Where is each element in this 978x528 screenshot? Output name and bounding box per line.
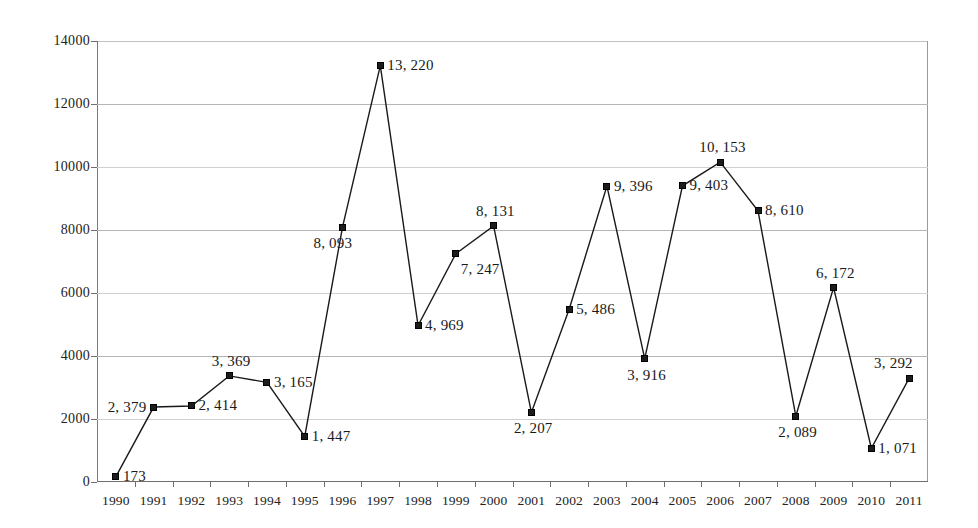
data-point-label: 10, 153 — [699, 140, 745, 155]
y-tick-label: 4000 — [61, 349, 90, 363]
x-tick-mark — [361, 482, 362, 487]
data-point-marker — [188, 402, 195, 409]
data-point-marker — [452, 250, 459, 257]
data-point-marker — [792, 413, 799, 420]
x-tick-mark — [626, 482, 627, 487]
data-point-label: 13, 220 — [387, 58, 433, 73]
data-point-marker — [301, 433, 308, 440]
data-point-marker — [226, 372, 233, 379]
data-point-label: 1, 447 — [312, 429, 351, 444]
x-tick-mark — [437, 482, 438, 487]
data-point-marker — [906, 375, 913, 382]
x-tick-mark — [324, 482, 325, 487]
y-tick-label: 6000 — [61, 286, 90, 300]
data-point-label: 3, 292 — [874, 356, 913, 371]
data-point-marker — [868, 445, 875, 452]
x-tick-mark — [513, 482, 514, 487]
data-point-label: 4, 969 — [425, 318, 464, 333]
data-point-label: 7, 247 — [461, 262, 500, 277]
data-point-marker — [830, 284, 837, 291]
data-point-label: 9, 403 — [689, 178, 728, 193]
x-tick-mark — [399, 482, 400, 487]
data-point-label: 2, 207 — [514, 421, 553, 436]
x-tick-mark — [777, 482, 778, 487]
x-tick-label: 2011 — [884, 494, 934, 508]
x-tick-mark — [475, 482, 476, 487]
y-tick-label: 10000 — [54, 160, 91, 174]
line-chart: 02000400060008000100001200014000 1990199… — [0, 0, 978, 528]
series-line — [97, 41, 928, 482]
plot-area: 1732, 3792, 4143, 3693, 1651, 4478, 0931… — [97, 41, 928, 482]
data-point-label: 3, 369 — [212, 354, 251, 369]
data-point-label: 8, 131 — [476, 204, 515, 219]
data-point-marker — [717, 159, 724, 166]
data-point-marker — [566, 306, 573, 313]
y-tick-label: 2000 — [61, 412, 90, 426]
y-tick-label: 8000 — [61, 223, 90, 237]
data-point-marker — [528, 409, 535, 416]
y-tick-label: 0 — [83, 475, 90, 489]
data-point-marker — [603, 183, 610, 190]
x-tick-mark — [286, 482, 287, 487]
data-point-label: 173 — [123, 469, 146, 484]
data-point-marker — [263, 379, 270, 386]
x-tick-mark — [815, 482, 816, 487]
y-tick-label: 12000 — [54, 97, 91, 111]
x-tick-mark — [890, 482, 891, 487]
data-point-label: 9, 396 — [614, 179, 653, 194]
data-point-label: 2, 414 — [198, 398, 237, 413]
data-point-label: 1, 071 — [878, 441, 917, 456]
data-point-label: 3, 916 — [627, 368, 666, 383]
data-point-label: 5, 486 — [576, 302, 615, 317]
x-tick-mark — [550, 482, 551, 487]
data-point-marker — [112, 473, 119, 480]
data-point-marker — [679, 182, 686, 189]
data-point-label: 8, 093 — [314, 236, 353, 251]
data-point-marker — [377, 62, 384, 69]
data-point-label: 2, 379 — [108, 400, 147, 415]
data-point-marker — [490, 222, 497, 229]
y-tick-label: 14000 — [54, 34, 91, 48]
data-point-marker — [339, 224, 346, 231]
data-point-marker — [415, 322, 422, 329]
data-point-label: 6, 172 — [816, 266, 855, 281]
x-tick-mark — [588, 482, 589, 487]
x-tick-mark — [173, 482, 174, 487]
data-point-label: 2, 089 — [778, 425, 817, 440]
x-tick-mark — [739, 482, 740, 487]
x-tick-mark — [852, 482, 853, 487]
y-tick-mark — [91, 482, 97, 483]
data-point-marker — [150, 404, 157, 411]
data-point-marker — [641, 355, 648, 362]
data-point-label: 8, 610 — [765, 203, 804, 218]
data-point-marker — [755, 207, 762, 214]
x-tick-mark — [701, 482, 702, 487]
x-tick-mark — [664, 482, 665, 487]
x-tick-mark — [248, 482, 249, 487]
x-tick-mark — [210, 482, 211, 487]
data-point-label: 3, 165 — [274, 375, 313, 390]
